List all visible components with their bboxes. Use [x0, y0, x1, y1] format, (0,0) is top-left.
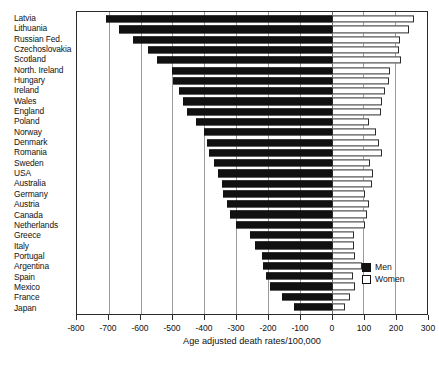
category-label: Russian Fed. — [0, 34, 76, 44]
category-label: Argentina — [0, 261, 76, 271]
category-label: Canada — [0, 210, 76, 220]
bar-women — [332, 303, 345, 310]
bar-row — [77, 302, 427, 312]
x-axis-tick — [428, 315, 429, 320]
bar-women — [332, 180, 373, 187]
category-label: Sweden — [0, 158, 76, 168]
x-axis-tick-label: -700 — [99, 322, 116, 334]
bar-women — [332, 46, 399, 53]
category-label: Denmark — [0, 137, 76, 147]
bar-row — [77, 158, 427, 168]
category-label: England — [0, 106, 76, 116]
bar-women — [332, 98, 383, 105]
x-axis-tick — [108, 315, 109, 320]
legend-swatch-women-icon — [362, 275, 371, 284]
category-label: USA — [0, 168, 76, 178]
bar-women — [332, 149, 382, 156]
bar-women — [332, 118, 370, 125]
bar-men — [207, 139, 332, 146]
bar-men — [222, 180, 332, 187]
bar-row — [77, 86, 427, 96]
bar-row — [77, 189, 427, 199]
bar-men — [183, 98, 332, 105]
bar-men — [187, 108, 332, 115]
bar-women — [332, 57, 401, 64]
bar-row — [77, 65, 427, 75]
x-axis-tick — [300, 315, 301, 320]
x-axis-tick-label: -800 — [67, 322, 84, 334]
legend-label-men: Men — [375, 263, 392, 272]
bar-women — [332, 201, 370, 208]
legend-swatch-men-icon — [362, 263, 371, 272]
category-label: Spain — [0, 272, 76, 282]
x-axis-tick — [396, 315, 397, 320]
bar-women — [332, 77, 390, 84]
bar-row — [77, 209, 427, 219]
bar-men — [263, 262, 331, 269]
bar-men — [204, 129, 331, 136]
x-axis-tick-label: -100 — [291, 322, 308, 334]
x-axis-tick-label: 0 — [330, 322, 335, 334]
x-axis-tick — [332, 315, 333, 320]
bar-row — [77, 168, 427, 178]
bar-men — [196, 118, 331, 125]
x-axis-tick-label: -300 — [227, 322, 244, 334]
bar-row — [77, 148, 427, 158]
bar-row — [77, 107, 427, 117]
category-label: Netherlands — [0, 220, 76, 230]
legend-item-women: Women — [362, 275, 404, 284]
x-axis-tick-label: -200 — [259, 322, 276, 334]
bar-women — [332, 211, 368, 218]
bar-row — [77, 24, 427, 34]
bar-row — [77, 55, 427, 65]
category-label: Latvia — [0, 13, 76, 23]
bar-row — [77, 230, 427, 240]
bar-men — [157, 57, 332, 64]
bar-men — [223, 190, 331, 197]
category-label: Czechoslovakia — [0, 44, 76, 54]
bar-women — [332, 262, 362, 269]
bar-women — [332, 293, 350, 300]
bar-row — [77, 292, 427, 302]
bar-women — [332, 283, 356, 290]
chart-legend: Men Women — [362, 263, 404, 284]
bar-women — [332, 190, 365, 197]
category-label: Germany — [0, 189, 76, 199]
bar-row — [77, 137, 427, 147]
category-label: Wales — [0, 96, 76, 106]
bar-women — [332, 139, 380, 146]
bar-women — [332, 231, 355, 238]
bar-women — [332, 129, 377, 136]
bar-women — [332, 16, 414, 23]
category-label: Italy — [0, 241, 76, 251]
bar-women — [332, 159, 370, 166]
bar-row — [77, 45, 427, 55]
x-axis-tick-label: 200 — [389, 322, 403, 334]
category-label: Greece — [0, 230, 76, 240]
x-axis-ticks — [76, 315, 428, 321]
bar-row — [77, 14, 427, 24]
chart-container: LatviaLithuaniaRussian Fed.Czechoslovaki… — [0, 0, 439, 367]
bar-women — [332, 221, 365, 228]
bar-men — [262, 252, 331, 259]
x-axis-tick-label: -500 — [163, 322, 180, 334]
bar-row — [77, 220, 427, 230]
bar-row — [77, 35, 427, 45]
category-label: Norway — [0, 127, 76, 137]
bar-men — [230, 211, 332, 218]
bar-row — [77, 117, 427, 127]
category-label: Mexico — [0, 282, 76, 292]
bar-men — [209, 149, 332, 156]
bar-men — [119, 26, 332, 33]
bar-men — [218, 170, 332, 177]
x-axis-tick — [76, 315, 77, 320]
bar-men — [227, 201, 332, 208]
bar-men — [179, 88, 332, 95]
x-axis-tick-label: 300 — [421, 322, 435, 334]
bar-men — [236, 221, 331, 228]
x-axis-tick — [236, 315, 237, 320]
x-axis-tick — [364, 315, 365, 320]
bar-row — [77, 96, 427, 106]
category-label: Scotland — [0, 54, 76, 64]
bar-women — [332, 273, 354, 280]
